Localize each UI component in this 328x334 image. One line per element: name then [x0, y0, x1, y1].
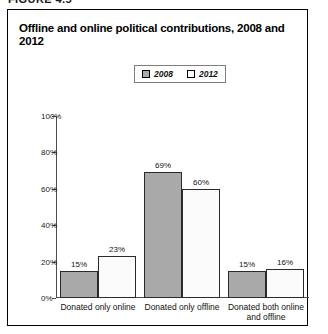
bar-2012-2 — [266, 269, 304, 298]
legend-item-2012: 2012 — [187, 69, 218, 79]
bar-value-label: 15% — [71, 260, 87, 269]
y-axis-tick-label: 80% — [41, 148, 45, 157]
y-axis-tick-label: 0% — [41, 294, 45, 303]
y-axis-tick-label: 60% — [41, 184, 45, 193]
y-axis-tick — [52, 298, 56, 299]
figure-container: FIGURE 4.5 Offline and online political … — [0, 0, 328, 334]
bar-2008-0 — [60, 271, 98, 298]
bar-value-label: 16% — [277, 258, 293, 267]
x-axis-category-label: Donated only offline — [135, 302, 229, 312]
plot-area: 0%20%40%60%80%100%15%23%Donated only onl… — [56, 116, 308, 298]
bar-2008-2 — [228, 271, 266, 298]
chart-panel: Offline and online political contributio… — [7, 9, 308, 326]
figure-number: FIGURE 4.5 — [8, 0, 72, 5]
y-axis-tick-label: 20% — [41, 257, 45, 266]
y-axis-tick-label: 40% — [41, 221, 45, 230]
chart-legend: 2008 2012 — [134, 65, 226, 83]
bar-2012-1 — [182, 189, 220, 298]
legend-label-2008: 2008 — [154, 69, 173, 79]
bar-2012-0 — [98, 256, 136, 298]
y-axis-line — [56, 116, 57, 298]
legend-swatch-2008-icon — [142, 70, 150, 78]
legend-swatch-2012-icon — [187, 70, 195, 78]
x-axis-category-label: Donated only online — [51, 302, 145, 312]
bar-value-label: 60% — [193, 178, 209, 187]
bar-value-label: 69% — [155, 161, 171, 170]
y-axis-tick-label: 100% — [41, 112, 45, 121]
bar-value-label: 15% — [239, 260, 255, 269]
chart-title: Offline and online political contributio… — [19, 22, 301, 48]
legend-label-2012: 2012 — [199, 69, 218, 79]
x-axis-category-label: Donated both online and offline — [219, 302, 313, 322]
bar-value-label: 23% — [109, 245, 125, 254]
legend-item-2008: 2008 — [142, 69, 173, 79]
bar-2008-1 — [144, 172, 182, 298]
